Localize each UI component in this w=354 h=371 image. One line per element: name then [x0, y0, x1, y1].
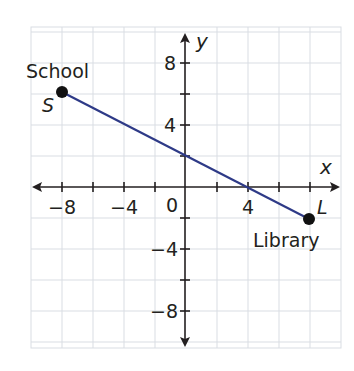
library-label: Library: [253, 229, 319, 251]
tick-label-y-8: 8: [164, 52, 176, 74]
tick-label-y-neg8: −8: [150, 300, 178, 322]
tick-label-x-neg8: −8: [48, 196, 76, 218]
y-axis-label: y: [195, 29, 209, 53]
tick-label-x-neg4: −4: [110, 196, 138, 218]
point-school: [56, 86, 68, 98]
point-library: [303, 213, 315, 225]
school-label: School: [26, 60, 89, 82]
y-axis: [180, 33, 190, 347]
tick-label-x-4: 4: [242, 196, 254, 218]
tick-label-y-neg4: −4: [150, 238, 178, 260]
x-axis-label: x: [319, 155, 332, 179]
x-axis: [32, 182, 340, 192]
tick-label-y-4: 4: [164, 114, 176, 136]
library-letter-label: L: [317, 196, 328, 218]
coordinate-plane: y x −8 −4 0 4 8 4 −4 −8 School S L Libra…: [0, 0, 354, 371]
tick-label-origin: 0: [166, 194, 178, 216]
school-letter-label: S: [42, 94, 54, 116]
